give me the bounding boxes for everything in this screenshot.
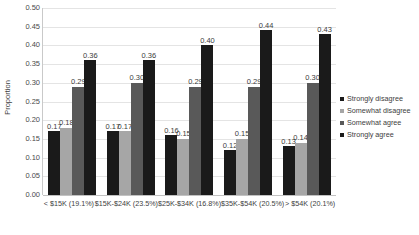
legend-item[interactable]: Somewhat disagree	[340, 105, 419, 117]
x-axis-tick-label: $35K-$54K (20.5%)	[221, 197, 284, 215]
y-axis-tick-label: 0.45	[6, 23, 40, 31]
bar[interactable]	[201, 45, 213, 195]
y-axis-tick-label: 0.50	[6, 4, 40, 12]
bar-value-label: 0.44	[259, 22, 274, 30]
bar[interactable]	[260, 30, 272, 195]
bar[interactable]	[119, 131, 131, 195]
y-axis-tick-label: 0.40	[6, 42, 40, 50]
bar[interactable]	[248, 87, 260, 195]
bar-group: 0.170.170.300.36	[102, 8, 161, 195]
x-axis-tick-label: > $54K (20.1%)	[284, 197, 336, 215]
bar[interactable]	[143, 60, 155, 195]
bar[interactable]	[295, 143, 307, 195]
bar-value-label: 0.36	[83, 52, 98, 60]
legend-swatch-icon	[340, 121, 344, 125]
x-axis-tick-labels: < $15K (19.1%)$15K-$24K (23.5%)$25K-$34K…	[43, 197, 336, 215]
x-axis-tick-label: $25K-$34K (16.8%)	[158, 197, 221, 215]
bar-slot: 0.15	[236, 8, 248, 195]
legend-label: Strongly disagree	[347, 95, 403, 102]
bar-slot: 0.15	[177, 8, 189, 195]
bar[interactable]	[307, 83, 319, 195]
bar-slot: 0.17	[48, 8, 60, 195]
bar-slot: 0.17	[107, 8, 119, 195]
bar[interactable]	[131, 83, 143, 195]
bar-slot: 0.30	[307, 8, 319, 195]
bar[interactable]	[72, 87, 84, 195]
x-axis-tick-label: $15K-$24K (23.5%)	[95, 197, 158, 215]
bar-slot: 0.36	[84, 8, 96, 195]
gridline	[43, 195, 336, 196]
bar-group: 0.160.150.290.40	[160, 8, 219, 195]
y-axis-tick-label: 0.25	[6, 98, 40, 106]
bar-slot: 0.13	[283, 8, 295, 195]
y-axis-tick-label: 0.20	[6, 116, 40, 124]
y-axis-tick-label: 0.30	[6, 79, 40, 87]
bar-slot: 0.17	[119, 8, 131, 195]
bar[interactable]	[224, 150, 236, 195]
legend-item[interactable]: Strongly agree	[340, 129, 419, 141]
legend-label: Strongly agree	[347, 131, 394, 138]
bar[interactable]	[236, 139, 248, 195]
legend: Strongly disagreeSomewhat disagreeSomewh…	[340, 93, 419, 141]
bar-chart: Proportion 0.000.050.100.150.200.250.300…	[0, 0, 419, 235]
bar[interactable]	[189, 87, 201, 195]
bar[interactable]	[48, 131, 60, 195]
bar-group: 0.130.140.300.43	[277, 8, 336, 195]
bar-slot: 0.40	[201, 8, 213, 195]
bar-slot: 0.12	[224, 8, 236, 195]
bar-slot: 0.14	[295, 8, 307, 195]
bar-slot: 0.30	[131, 8, 143, 195]
bar-value-label: 0.36	[142, 52, 157, 60]
bar[interactable]	[107, 131, 119, 195]
legend-swatch-icon	[340, 109, 344, 113]
legend-label: Somewhat disagree	[347, 107, 411, 114]
y-axis-tick-label: 0.05	[6, 173, 40, 181]
bar[interactable]	[60, 128, 72, 195]
legend-item[interactable]: Somewhat agree	[340, 117, 419, 129]
bar-slot: 0.16	[165, 8, 177, 195]
bar[interactable]	[177, 139, 189, 195]
y-axis-tick-label: 0.35	[6, 60, 40, 68]
bar[interactable]	[283, 146, 295, 195]
bar[interactable]	[319, 34, 331, 195]
bar-slot: 0.29	[72, 8, 84, 195]
bar-group: 0.170.180.290.36	[43, 8, 102, 195]
bar-slot: 0.43	[319, 8, 331, 195]
y-axis-tick-label: 0.10	[6, 154, 40, 162]
bar-slot: 0.29	[248, 8, 260, 195]
bar-groups: 0.170.180.290.360.170.170.300.360.160.15…	[43, 8, 336, 195]
bar-slot: 0.44	[260, 8, 272, 195]
bar-slot: 0.18	[60, 8, 72, 195]
legend-swatch-icon	[340, 97, 344, 101]
legend-swatch-icon	[340, 133, 344, 137]
bar-slot: 0.36	[143, 8, 155, 195]
bar-value-label: 0.43	[317, 26, 332, 34]
bar[interactable]	[165, 135, 177, 195]
y-axis-tick-labels: 0.000.050.100.150.200.250.300.350.400.45…	[0, 8, 40, 195]
x-axis-tick-label: < $15K (19.1%)	[43, 197, 95, 215]
legend-item[interactable]: Strongly disagree	[340, 93, 419, 105]
y-axis-tick-label: 0.00	[6, 191, 40, 199]
bar[interactable]	[84, 60, 96, 195]
bar-group: 0.120.150.290.44	[219, 8, 278, 195]
bar-value-label: 0.40	[200, 37, 215, 45]
y-axis-tick-label: 0.15	[6, 135, 40, 143]
legend-label: Somewhat agree	[347, 119, 401, 126]
